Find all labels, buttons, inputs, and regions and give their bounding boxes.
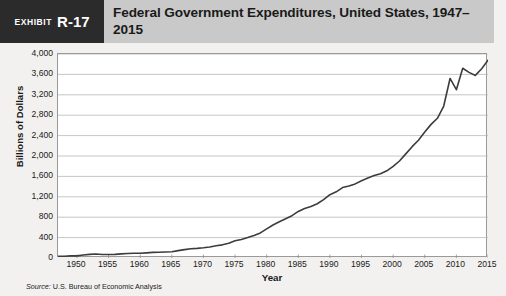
x-tick-label: 1955 [98,259,117,269]
x-tick-label: 1995 [351,259,370,269]
y-tick-label: 2,800 [0,109,53,119]
exhibit-badge: Exhibit R-17 [0,0,104,43]
x-tick-label: 2005 [414,259,433,269]
chart-area: Billions of Dollars 04008001,2001,6002,0… [0,43,506,296]
y-tick-label: 3,600 [0,68,53,78]
source-note: Source: U.S. Bureau of Economic Analysis [26,282,162,291]
y-tick-label: 2,400 [0,130,53,140]
x-tick-label: 1950 [66,259,85,269]
x-tick-label: 1985 [288,259,307,269]
plot-frame [57,53,487,257]
source-text: U.S. Bureau of Economic Analysis [51,282,162,291]
x-tick-label: 1975 [224,259,243,269]
y-tick-label: 1,200 [0,191,53,201]
y-tick-label: 3,200 [0,89,53,99]
line-chart-svg [58,54,488,258]
y-tick-label: 1,600 [0,170,53,180]
exhibit-title: Federal Government Expenditures, United … [113,5,488,38]
x-tick-label: 1960 [130,259,149,269]
gridlines [58,54,488,238]
exhibit-number-label: R-17 [57,13,90,30]
x-tick-label: 1965 [161,259,180,269]
y-tick-label: 2,000 [0,150,53,160]
y-axis-tick-labels: 04008001,2001,6002,0002,4002,8003,2003,6… [0,53,53,257]
series-line-federal-expenditures [58,60,488,256]
x-tick-label: 2000 [383,259,402,269]
x-tick-label: 2010 [446,259,465,269]
y-tick-label: 400 [0,232,53,242]
x-axis-tick-labels: 1950195519601965197019751980198519901995… [57,259,487,273]
exhibit-header-band: Exhibit R-17 Federal Government Expendit… [0,0,494,43]
exhibit-word-label: Exhibit [14,17,52,27]
x-tick-label: 1990 [319,259,338,269]
x-tick-label: 1970 [193,259,212,269]
source-label: Source: [26,282,51,291]
x-tick-label: 2015 [477,259,496,269]
x-tick-label: 1980 [256,259,275,269]
x-axis-tick-marks [77,255,488,259]
y-tick-label: 0 [0,252,53,262]
y-tick-label: 800 [0,211,53,221]
exhibit-figure: Exhibit R-17 Federal Government Expendit… [0,0,506,296]
y-tick-label: 4,000 [0,48,53,58]
